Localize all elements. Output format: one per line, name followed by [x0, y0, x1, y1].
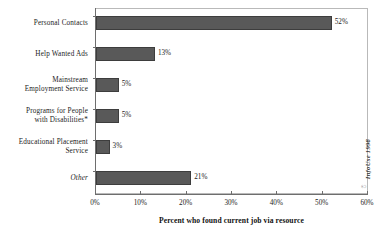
category-label: Programs for Peoplewith Disabilities* — [0, 107, 88, 124]
bar-value-label: 13% — [158, 48, 171, 58]
bar — [96, 171, 191, 185]
copyright-symbol-icon: © — [361, 184, 366, 191]
bar-row: Other21% — [0, 163, 379, 194]
bar-value-label: 52% — [335, 17, 348, 27]
category-label: Help Wanted Ads — [0, 50, 88, 59]
bar-track: 21% — [96, 163, 368, 194]
category-label-line: Employment Service — [25, 85, 88, 93]
category-label: Other — [0, 174, 88, 183]
x-tick-label: 40% — [270, 199, 283, 208]
bar-track: 13% — [96, 39, 368, 70]
bar-track: 3% — [96, 132, 368, 163]
x-axis-ticks: 0%10%20%30%40%50%60% — [95, 194, 368, 208]
bar-row: MainstreamEmployment Service5% — [0, 70, 379, 101]
x-tick-mark — [322, 191, 323, 195]
category-label-line: Other — [70, 174, 88, 182]
bar — [96, 140, 110, 154]
category-label-line: Help Wanted Ads — [35, 50, 88, 58]
x-tick-label: 50% — [315, 199, 328, 208]
bar-chart: Personal Contacts52%Help Wanted Ads13%Ma… — [0, 0, 379, 233]
x-tick-label: 20% — [179, 199, 192, 208]
x-tick-label: 30% — [224, 199, 237, 208]
bar-value-label: 5% — [122, 110, 132, 120]
x-tick-label: 60% — [360, 199, 373, 208]
bar — [96, 109, 119, 123]
bar — [96, 16, 332, 30]
bar-row: Programs for Peoplewith Disabilities*5% — [0, 101, 379, 132]
bar-row: Help Wanted Ads13% — [0, 39, 379, 70]
x-tick-mark — [276, 191, 277, 195]
copyright-text: InfoUse 1998 — [364, 139, 371, 179]
bar-value-label: 21% — [194, 172, 207, 182]
category-label: MainstreamEmployment Service — [0, 76, 88, 93]
copyright-notice: InfoUse 1998 © — [361, 126, 373, 192]
category-label: Educational PlacementService — [0, 138, 88, 155]
x-tick-label: 10% — [134, 199, 147, 208]
category-label-line: Programs for People — [26, 107, 88, 115]
bar-track: 52% — [96, 8, 368, 39]
bar-track: 5% — [96, 101, 368, 132]
x-tick-mark — [140, 191, 141, 195]
x-tick-mark — [186, 191, 187, 195]
category-label-line: Mainstream — [52, 76, 88, 84]
cut-off-caption — [95, 227, 374, 233]
category-label-line: Service — [65, 147, 88, 155]
category-label: Personal Contacts — [0, 19, 88, 28]
bar-value-label: 3% — [113, 141, 123, 151]
x-tick-mark — [95, 191, 96, 195]
bar-track: 5% — [96, 70, 368, 101]
bar-row: Educational PlacementService3% — [0, 132, 379, 163]
category-label-line: with Disabilities* — [34, 116, 88, 124]
bar-value-label: 5% — [122, 79, 132, 89]
bar — [96, 47, 155, 61]
bar-row: Personal Contacts52% — [0, 8, 379, 39]
x-axis-title: Percent who found current job via resour… — [95, 216, 368, 225]
x-tick-mark — [231, 191, 232, 195]
x-tick-label: 0% — [90, 199, 100, 208]
bar-rows: Personal Contacts52%Help Wanted Ads13%Ma… — [0, 8, 379, 194]
bar — [96, 78, 119, 92]
category-label-line: Educational Placement — [19, 138, 88, 146]
category-label-line: Personal Contacts — [34, 19, 88, 27]
